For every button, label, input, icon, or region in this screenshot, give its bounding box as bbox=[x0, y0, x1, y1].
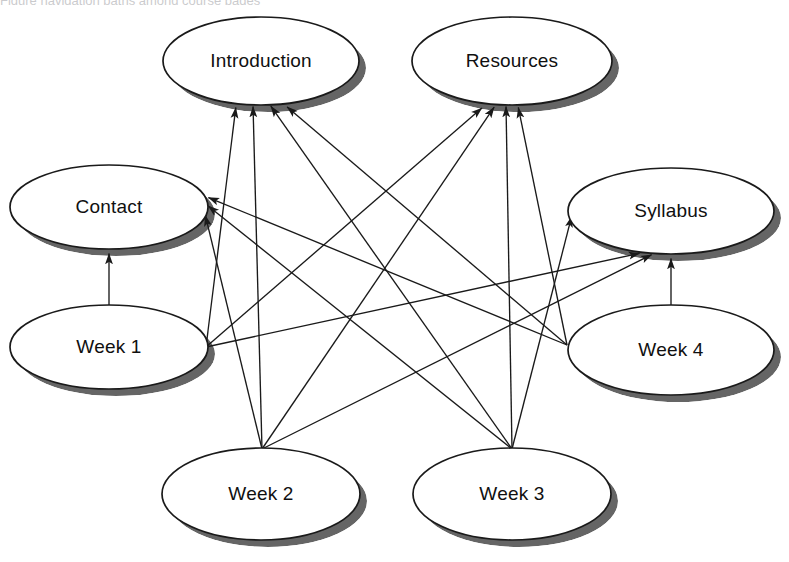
edge-layer bbox=[109, 106, 671, 449]
node-shadow-layer bbox=[17, 24, 781, 547]
node-introduction[interactable]: Introduction bbox=[163, 17, 359, 105]
node-resources[interactable]: Resources bbox=[412, 17, 612, 105]
graph-svg: IntroductionResourcesContactSyllabusWeek… bbox=[0, 0, 789, 562]
node-week3[interactable]: Week 3 bbox=[413, 448, 611, 540]
edge-week1-to-resources bbox=[206, 108, 482, 347]
node-week1[interactable]: Week 1 bbox=[10, 305, 208, 389]
node-week2[interactable]: Week 2 bbox=[162, 448, 360, 540]
diagram-canvas: Figure navigation paths among course pag… bbox=[0, 0, 789, 562]
node-label: Resources bbox=[466, 50, 559, 71]
edge-week2-to-resources bbox=[262, 107, 494, 449]
edge-week1-to-introduction bbox=[206, 107, 236, 347]
node-contact[interactable]: Contact bbox=[10, 165, 208, 249]
node-label: Introduction bbox=[210, 50, 312, 71]
node-label: Week 1 bbox=[76, 336, 141, 357]
edge-week1-to-syllabus bbox=[206, 253, 640, 347]
node-label: Week 2 bbox=[228, 483, 293, 504]
edge-week4-to-contact bbox=[208, 198, 567, 345]
node-label: Week 3 bbox=[479, 483, 544, 504]
node-label: Week 4 bbox=[638, 339, 704, 360]
node-label: Contact bbox=[76, 196, 143, 217]
edge-week2-to-contact bbox=[205, 215, 262, 449]
node-syllabus[interactable]: Syllabus bbox=[568, 168, 774, 254]
edge-week3-to-syllabus bbox=[512, 216, 572, 449]
edge-week3-to-resources bbox=[506, 106, 512, 449]
edge-week3-to-introduction bbox=[271, 106, 512, 449]
edge-week2-to-introduction bbox=[253, 106, 262, 449]
node-week4[interactable]: Week 4 bbox=[568, 305, 774, 395]
node-label: Syllabus bbox=[634, 200, 707, 221]
